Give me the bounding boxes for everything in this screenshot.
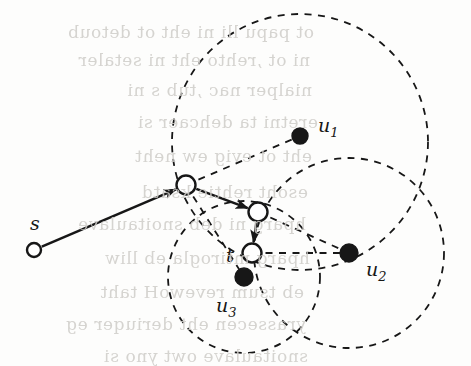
dashed-spoke-v1-u1: [186, 136, 300, 185]
node-v1[interactable]: [177, 176, 196, 195]
node-u2[interactable]: [340, 244, 358, 262]
dashed-spoke-v1-u3: [186, 185, 244, 277]
label-u3: u3: [216, 294, 237, 320]
label-t: t: [226, 244, 234, 266]
path-edge-v1-v2: [196, 189, 247, 208]
label-s: s: [30, 212, 40, 234]
node-label-group: stu1u2u3: [30, 114, 387, 320]
figure-canvas: ot papu lli ni eht ot detoubni ot ,rehto…: [0, 0, 471, 366]
node-u1[interactable]: [292, 128, 308, 144]
node-s[interactable]: [27, 243, 41, 257]
label-u2: u2: [366, 258, 387, 284]
path-diagram: stu1u2u3: [0, 0, 471, 366]
dashed-disk-group: [168, 14, 444, 353]
node-u3[interactable]: [235, 268, 253, 286]
path-edge-s-v1: [42, 189, 176, 246]
node-t[interactable]: [243, 244, 262, 263]
dashed-spoke-v2-u2: [258, 212, 349, 253]
dashed-spoke-group: [186, 136, 349, 277]
path-edge-group: [42, 189, 257, 247]
path-edge-v2-t: [254, 223, 257, 242]
node-v2[interactable]: [249, 203, 268, 222]
node-group: [27, 128, 358, 286]
label-u1: u1: [318, 114, 339, 140]
